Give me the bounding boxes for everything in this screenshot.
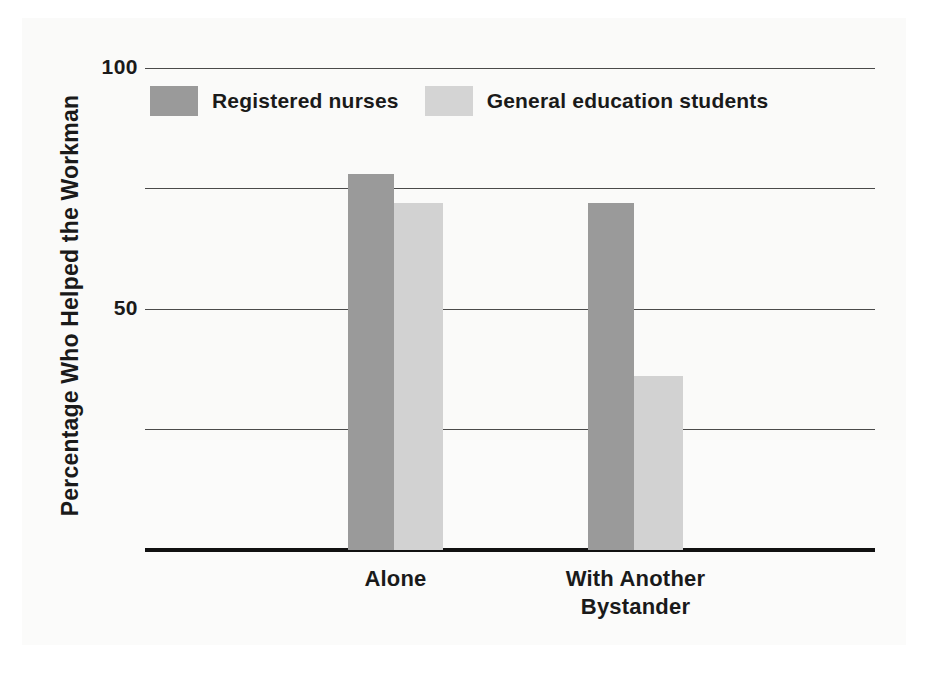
gridline-25 [145, 429, 875, 430]
legend-item-registered-nurses: Registered nurses [150, 86, 399, 116]
gridline-75 [145, 188, 875, 189]
y-tick-label-50: 50 [76, 296, 138, 320]
x-axis-label-line: With Another [566, 566, 705, 591]
x-axis-label-with-another-bystander: With AnotherBystander [486, 565, 786, 621]
chart-legend: Registered nurses General education stud… [150, 86, 768, 116]
x-axis-line [145, 548, 875, 552]
legend-swatch-icon-registered-nurses [150, 86, 198, 116]
legend-swatch-icon-general-education-students [425, 86, 473, 116]
x-axis-label-line: Alone [364, 566, 426, 591]
gridline-100 [145, 68, 875, 69]
x-axis-label-line: Bystander [486, 593, 786, 621]
legend-label-registered-nurses: Registered nurses [212, 89, 399, 113]
figure-root: Percentage Who Helped the Workman 10050 … [0, 0, 932, 681]
bar-general-education-students-group-2 [634, 376, 683, 550]
gridline-50 [145, 309, 875, 310]
y-tick-50: 50 [64, 296, 138, 320]
bar-registered-nurses-group-2 [588, 203, 634, 550]
bar-general-education-students-group-1 [394, 203, 443, 550]
y-tick-label-100: 100 [76, 55, 138, 79]
y-tick-100: 100 [64, 55, 138, 79]
bar-chart-plot: Percentage Who Helped the Workman 10050 … [0, 0, 932, 681]
bar-registered-nurses-group-1 [348, 174, 394, 550]
legend-item-general-education-students: General education students [425, 86, 769, 116]
legend-label-general-education-students: General education students [487, 89, 769, 113]
